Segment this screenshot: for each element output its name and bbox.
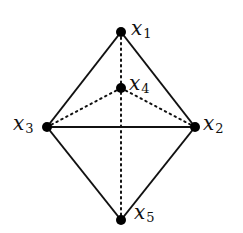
edge-x4-x3 xyxy=(47,88,121,127)
label-x4: x4 xyxy=(129,71,150,96)
label-x2: x2 xyxy=(203,111,224,136)
edge-x1-x3 xyxy=(47,32,121,127)
node-x4 xyxy=(116,83,126,93)
label-x1: x1 xyxy=(131,16,152,41)
node-x2 xyxy=(190,122,200,132)
edge-x3-x5 xyxy=(47,127,121,220)
node-x5 xyxy=(116,215,126,225)
label-x5: x5 xyxy=(134,200,155,225)
node-x1 xyxy=(116,27,126,37)
graph-diagram: x1 x2 x3 x4 x5 xyxy=(0,0,243,233)
edge-x2-x5 xyxy=(121,127,195,220)
node-x3 xyxy=(42,122,52,132)
node-labels: x1 x2 x3 x4 x5 xyxy=(13,16,224,225)
label-x3: x3 xyxy=(13,111,34,136)
